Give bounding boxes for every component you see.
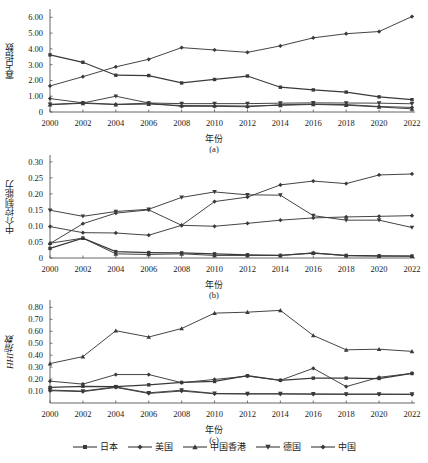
- data-point-marker: [311, 36, 315, 40]
- data-point-marker: [48, 53, 51, 56]
- y-tick-label: 0: [39, 254, 43, 262]
- y-axis-label-a: 寡占指数: [2, 6, 16, 116]
- x-tick-label: 2012: [239, 118, 256, 128]
- data-point-marker: [147, 74, 150, 77]
- x-tick-label: 2010: [206, 118, 223, 128]
- data-point-marker: [312, 376, 315, 379]
- series-japan: [48, 372, 413, 389]
- data-point-marker: [377, 173, 381, 177]
- chart-legend: 日本美国中国香港德国中国: [0, 440, 428, 453]
- data-point-marker: [213, 78, 216, 81]
- x-tick-label: 2006: [140, 409, 157, 419]
- series-germany: [48, 190, 415, 230]
- legend-marker-square-icon: [72, 442, 98, 452]
- legend-marker-diamond-icon: [127, 442, 153, 452]
- chart-svg-a: [46, 6, 418, 116]
- axis-lines: [50, 300, 415, 403]
- plot-canvas-a: [46, 6, 418, 116]
- x-tick-label: 2000: [42, 409, 59, 419]
- x-tick-label: 2006: [140, 264, 157, 274]
- x-tick-label: 2008: [173, 118, 190, 128]
- data-point-marker: [81, 231, 85, 235]
- series-hongkong: [48, 308, 415, 365]
- y-tick-label: 0.60: [28, 327, 43, 335]
- data-point-marker: [212, 48, 216, 52]
- y-tick-label: 0.80: [28, 303, 43, 311]
- series-line: [50, 216, 412, 236]
- x-axis-ticks-a: 2000200220042006200820102012201420162018…: [46, 118, 418, 130]
- data-point-marker: [377, 214, 381, 218]
- x-tick-label: 2014: [272, 409, 289, 419]
- y-tick-label: 2.00: [28, 76, 43, 84]
- data-point-marker: [48, 379, 52, 383]
- data-point-marker: [278, 183, 282, 187]
- x-tick-label: 2000: [42, 264, 59, 274]
- data-point-marker: [344, 376, 347, 379]
- figure-root: 寡占指数 01.002.003.004.005.006.00 200020022…: [0, 0, 428, 463]
- data-point-marker: [410, 98, 413, 101]
- x-tick-label: 2012: [239, 409, 256, 419]
- y-tick-label: 0.70: [28, 315, 43, 323]
- legend-label: 美国: [155, 440, 173, 453]
- y-axis-label-b: 中介控制能力: [2, 152, 16, 262]
- legend-marker-triangle-down-icon: [255, 442, 281, 452]
- subplot-c: HHI指数 0.100.200.300.400.500.600.700.80 2…: [0, 297, 428, 437]
- series-china: [48, 172, 414, 246]
- series-hongkong: [48, 101, 415, 111]
- data-point-marker: [114, 372, 118, 376]
- x-axis-ticks-c: 2000200220042006200820102012201420162018…: [46, 409, 418, 421]
- data-point-marker: [180, 81, 183, 84]
- data-point-marker: [138, 444, 143, 449]
- data-point-marker: [344, 32, 348, 36]
- x-tick-label: 2020: [371, 409, 388, 419]
- legend-label: 中国: [338, 440, 356, 453]
- series-japan: [48, 53, 413, 101]
- data-point-marker: [48, 247, 51, 250]
- data-point-marker: [81, 222, 85, 226]
- data-point-marker: [278, 44, 282, 48]
- data-point-marker: [246, 74, 249, 77]
- y-tick-label: 0.05: [28, 238, 43, 246]
- y-tick-label: 3.00: [28, 61, 43, 69]
- legend-item-hongkong[interactable]: 中国香港: [182, 440, 246, 453]
- legend-item-china[interactable]: 中国: [310, 440, 356, 453]
- series-usa: [48, 366, 414, 389]
- data-point-marker: [245, 50, 249, 54]
- legend-label: 中国香港: [210, 440, 246, 453]
- series-japan: [48, 236, 413, 257]
- x-tick-label: 2016: [305, 118, 322, 128]
- plot-area-b: 中介控制能力 00.050.100.150.200.250.30: [0, 152, 428, 262]
- legend-item-usa[interactable]: 美国: [127, 440, 173, 453]
- y-axis-ticks-a: 01.002.003.004.005.006.00: [16, 6, 46, 116]
- data-point-marker: [147, 233, 151, 237]
- legend-marker-triangle-up-icon: [182, 442, 208, 452]
- subplot-a: 寡占指数 01.002.003.004.005.006.00 200020022…: [0, 6, 428, 156]
- y-tick-label: 6.00: [28, 13, 43, 21]
- x-tick-label: 2022: [404, 264, 421, 274]
- x-tick-label: 2018: [338, 409, 355, 419]
- legend-item-germany[interactable]: 德国: [255, 440, 301, 453]
- data-point-marker: [311, 179, 315, 183]
- data-point-marker: [81, 61, 84, 64]
- y-tick-label: 0.25: [28, 174, 43, 182]
- data-point-marker: [377, 29, 381, 33]
- y-tick-label: 0.10: [28, 222, 43, 230]
- y-tick-label: 0.10: [28, 387, 43, 395]
- x-tick-label: 2016: [305, 264, 322, 274]
- legend-item-japan[interactable]: 日本: [72, 440, 118, 453]
- x-tick-label: 2000: [42, 118, 59, 128]
- data-point-marker: [83, 445, 87, 449]
- x-tick-label: 2014: [272, 264, 289, 274]
- series-line: [50, 373, 412, 387]
- y-axis-ticks-c: 0.100.200.300.400.500.600.700.80: [16, 297, 46, 407]
- x-tick-label: 2022: [404, 118, 421, 128]
- x-tick-label: 2008: [173, 264, 190, 274]
- series-line: [50, 17, 412, 86]
- data-point-marker: [245, 221, 249, 225]
- subplot-b: 中介控制能力 00.050.100.150.200.250.30 2000200…: [0, 152, 428, 295]
- data-point-marker: [321, 444, 326, 449]
- data-point-marker: [212, 224, 216, 228]
- x-tick-label: 2016: [305, 409, 322, 419]
- data-point-marker: [114, 328, 119, 332]
- x-tick-label: 2008: [173, 409, 190, 419]
